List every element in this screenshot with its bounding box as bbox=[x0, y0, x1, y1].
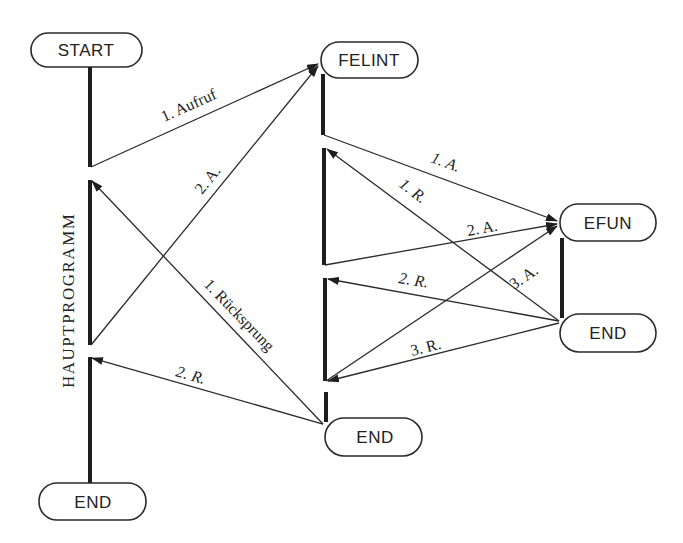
edge-return-1-arrow bbox=[92, 181, 323, 424]
efun-end-node: END bbox=[560, 314, 656, 352]
edge-efun-return-2-label: 2. R. bbox=[398, 269, 430, 290]
felint-routine: FELINT END bbox=[321, 42, 422, 456]
efun-label: EFUN bbox=[584, 214, 632, 233]
felint-end-node: END bbox=[325, 418, 422, 456]
main-end-label: END bbox=[74, 493, 111, 512]
edge-call-2-label: 2. A. bbox=[191, 162, 224, 197]
felint-label: FELINT bbox=[338, 51, 400, 70]
main-program-label: HAUPTPROGRAMM bbox=[59, 213, 78, 388]
start-node: START bbox=[31, 33, 142, 67]
efun-end-label: END bbox=[589, 324, 626, 343]
edges-felint-efun: 1. A. 1. R. 2. A. 2. R. 3. A. 3. R. bbox=[324, 135, 559, 381]
edge-efun-return-3-label: 3. R. bbox=[409, 335, 443, 359]
felint-end-label: END bbox=[356, 428, 393, 447]
efun-node: EFUN bbox=[560, 204, 656, 241]
main-program: START END HAUPTPROGRAMM bbox=[31, 33, 146, 520]
start-label: START bbox=[58, 41, 115, 60]
edge-efun-return-3-arrow bbox=[328, 323, 559, 381]
efun-routine: EFUN END bbox=[560, 204, 656, 352]
edge-efun-call-3-label: 3. A. bbox=[506, 261, 541, 292]
edge-efun-return-1-label: 1. R. bbox=[396, 175, 430, 206]
edge-return-1-label: 1. Rücksprung bbox=[200, 275, 278, 355]
call-flow-diagram: START END HAUPTPROGRAMM FELINT END EFUN bbox=[0, 0, 683, 543]
main-end-node: END bbox=[39, 483, 146, 520]
edges-main-felint: 1. Aufruf 2. A. 1. Rücksprung 2. R. bbox=[91, 64, 323, 424]
edge-efun-call-1-arrow bbox=[324, 135, 557, 221]
felint-node: FELINT bbox=[321, 42, 418, 78]
edge-efun-return-1-arrow bbox=[327, 149, 559, 321]
edge-efun-call-1-label: 1. A. bbox=[429, 149, 463, 175]
edge-call-1-label: 1. Aufruf bbox=[158, 85, 219, 125]
edge-call-1-arrow bbox=[91, 64, 318, 167]
edge-call-2-arrow bbox=[91, 66, 318, 345]
edge-return-2-arrow bbox=[92, 358, 323, 424]
edge-efun-call-3-arrow bbox=[326, 226, 557, 381]
edge-efun-call-2-arrow bbox=[325, 224, 557, 265]
